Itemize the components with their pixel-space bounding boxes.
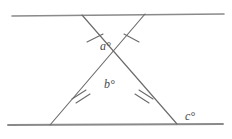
top-parallel-line: [12, 14, 224, 16]
tick-mark-upper-right-single: [124, 34, 139, 42]
angle-label-b: b°: [104, 78, 115, 90]
bottom-parallel-line: [8, 124, 223, 125]
geometry-figure: [0, 0, 232, 139]
transversal-right-to-left: [50, 14, 145, 125]
geometry-diagram-canvas: a° b° c°: [0, 0, 232, 139]
angle-label-a: a°: [100, 40, 111, 52]
angle-label-c: c°: [185, 110, 195, 122]
tick-mark-lower-right-double: [135, 90, 153, 103]
